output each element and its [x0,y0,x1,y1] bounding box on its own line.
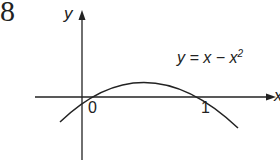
parabola-curve [60,82,238,128]
tick-origin: 0 [88,99,97,117]
tick-one: 1 [201,99,210,117]
graph [0,0,280,162]
curve-label: y = x − x2 [177,48,243,67]
curve-exponent: 2 [237,48,243,59]
y-arrow-icon [79,10,86,20]
x-axis-label: x [274,86,280,106]
y-axis-label: y [64,4,73,24]
curve-equation: y = x − x [177,49,237,66]
